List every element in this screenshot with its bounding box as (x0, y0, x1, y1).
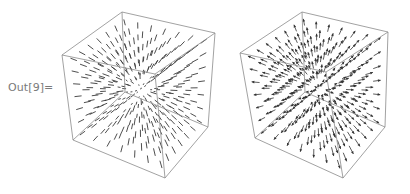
vectors (71, 20, 207, 168)
vector-field-graphic-lines (40, 0, 225, 194)
vector-field-graphic-arrows (225, 0, 410, 194)
vector-field-plot-lines[interactable] (40, 0, 225, 194)
vectors (248, 19, 381, 169)
vector-field-plot-arrows[interactable] (225, 0, 410, 194)
